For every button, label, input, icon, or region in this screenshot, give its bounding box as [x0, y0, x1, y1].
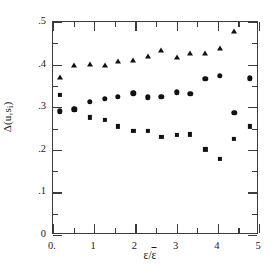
data-point-triangle	[158, 47, 164, 52]
x-tick-major-bottom	[53, 224, 54, 233]
x-tick-major-bottom	[218, 224, 219, 233]
x-tick-major-top	[53, 22, 54, 31]
x-tick-major-bottom	[135, 224, 136, 233]
data-point-circle	[87, 99, 92, 104]
data-point-circle	[131, 90, 136, 95]
data-point-square	[218, 157, 222, 161]
data-point-triangle	[57, 74, 63, 79]
x-tick-minor-bottom	[197, 228, 198, 233]
x-tick-label: 4	[214, 241, 219, 252]
x-tick-label: 0.	[48, 241, 56, 252]
y-tick-major-left	[53, 235, 62, 236]
data-point-square	[72, 108, 76, 112]
data-point-circle	[57, 109, 62, 114]
y-tick-major-right	[248, 235, 257, 236]
data-point-triangle	[231, 28, 237, 33]
x-tick-major-bottom	[94, 224, 95, 233]
x-tick-minor-bottom	[74, 228, 75, 233]
data-point-circle	[232, 110, 237, 115]
data-point-circle	[217, 73, 222, 78]
x-axis-title-denominator-group: ε	[152, 249, 157, 261]
data-point-circle	[247, 76, 252, 81]
x-tick-minor-top	[156, 22, 157, 27]
y-tick-minor-left	[53, 171, 58, 172]
y-tick-major-right	[248, 107, 257, 108]
data-point-triangle	[71, 63, 77, 68]
data-point-triangle	[130, 57, 136, 62]
data-point-square	[232, 137, 236, 141]
y-tick-minor-right	[252, 129, 257, 130]
data-point-square	[175, 133, 179, 137]
data-point-triangle	[187, 51, 193, 56]
y-tick-major-left	[53, 150, 62, 151]
plot-frame	[52, 21, 258, 234]
x-tick-minor-top	[74, 22, 75, 27]
x-tick-label: 1	[91, 241, 96, 252]
y-tick-minor-left	[53, 86, 58, 87]
x-tick-minor-bottom	[115, 228, 116, 233]
y-tick-major-left	[53, 22, 62, 23]
x-tick-minor-top	[197, 22, 198, 27]
x-tick-major-bottom	[259, 224, 260, 233]
y-tick-major-right	[248, 150, 257, 151]
y-tick-major-right	[248, 192, 257, 193]
y-tick-minor-right	[252, 171, 257, 172]
data-point-circle	[102, 96, 107, 101]
y-tick-label: .1	[20, 186, 46, 197]
y-tick-minor-right	[252, 214, 257, 215]
x-tick-minor-top	[115, 22, 116, 27]
y-axis-title-subscript: i	[6, 106, 15, 108]
data-point-square	[159, 135, 163, 139]
y-axis-title-close: )	[1, 102, 13, 106]
y-tick-major-left	[53, 65, 62, 66]
data-point-square	[58, 93, 62, 97]
data-point-circle	[159, 94, 164, 99]
x-tick-label: 3	[173, 241, 178, 252]
x-axis-title-denominator: ε	[152, 249, 157, 261]
x-tick-major-top	[135, 22, 136, 31]
data-point-square	[131, 129, 135, 133]
y-tick-label: .5	[20, 16, 46, 27]
x-tick-label: 5	[255, 241, 260, 252]
y-tick-minor-left	[53, 129, 58, 130]
x-tick-major-top	[94, 22, 95, 31]
y-tick-major-left	[53, 192, 62, 193]
x-axis-title: ε/ε	[144, 249, 157, 261]
data-point-square	[247, 124, 251, 128]
y-tick-label: 0	[20, 229, 46, 240]
y-tick-major-right	[248, 65, 257, 66]
data-point-circle	[174, 90, 179, 95]
x-tick-major-bottom	[177, 224, 178, 233]
data-point-square	[146, 129, 150, 133]
x-tick-major-top	[177, 22, 178, 31]
data-point-triangle	[115, 58, 121, 63]
data-point-circle	[115, 94, 120, 99]
x-tick-minor-bottom	[156, 228, 157, 233]
data-point-triangle	[174, 54, 180, 59]
data-point-square	[203, 147, 207, 151]
figure-canvas: Δ(u,si) ε/ε 0.1.2.3.4.50.12345	[0, 0, 280, 274]
data-point-triangle	[87, 62, 93, 67]
data-point-square	[88, 115, 92, 119]
y-tick-label: .3	[20, 101, 46, 112]
data-point-circle	[187, 91, 192, 96]
y-tick-label: .4	[20, 58, 46, 69]
data-point-triangle	[102, 62, 108, 67]
y-tick-minor-right	[252, 86, 257, 87]
x-tick-minor-top	[238, 22, 239, 27]
overbar	[152, 247, 157, 248]
data-point-circle	[145, 95, 150, 100]
y-tick-major-right	[248, 22, 257, 23]
y-tick-minor-right	[252, 43, 257, 44]
x-tick-major-top	[259, 22, 260, 31]
data-point-triangle	[217, 46, 223, 51]
x-tick-major-top	[218, 22, 219, 31]
data-point-triangle	[145, 53, 151, 58]
x-tick-label: 2	[132, 241, 137, 252]
y-axis-title: Δ(u,si)	[1, 102, 15, 133]
data-point-square	[116, 124, 120, 128]
data-point-triangle	[202, 50, 208, 55]
data-point-circle	[203, 76, 208, 81]
x-tick-minor-bottom	[238, 228, 239, 233]
data-point-square	[102, 118, 106, 122]
